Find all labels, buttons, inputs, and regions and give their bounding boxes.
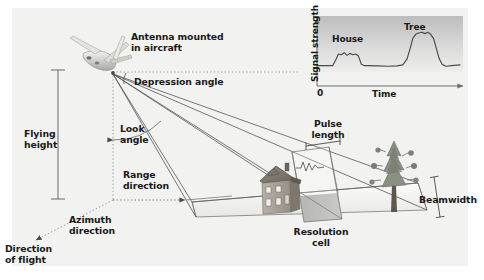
pulse-length-label-line2: length — [311, 129, 344, 140]
resolution-cell-label-line1: Resolution — [294, 226, 349, 237]
chart-xlabel: Time — [372, 89, 396, 100]
antenna-label-line2: in aircraft — [131, 42, 182, 53]
depression-angle-label: Depression angle — [134, 76, 224, 87]
antenna-label: Antenna mounted in aircraft — [131, 31, 227, 54]
range-direction-label: Range direction — [123, 169, 183, 192]
direction-of-flight-label: Direction of flight — [5, 243, 75, 266]
antenna-label-line1: Antenna mounted — [131, 31, 224, 42]
chart-annotation-house: House — [332, 34, 363, 45]
resolution-cell-label-line2: cell — [312, 237, 330, 248]
beamwidth-label: Beamwidth — [419, 194, 477, 205]
look-angle-label-line2: angle — [120, 134, 149, 145]
look-angle-label-line1: Look — [120, 123, 144, 134]
signal-strength-chart — [0, 0, 484, 280]
flying-height-label: Flying height — [24, 128, 72, 151]
chart-ylabel: Signal strength — [310, 5, 321, 82]
direction-of-flight-label-line2: of flight — [5, 254, 46, 265]
chart-x-origin-label: 0 — [317, 88, 323, 99]
flying-height-label-line2: height — [24, 139, 57, 150]
resolution-cell-label: Resolution cell — [285, 226, 357, 249]
range-direction-label-line2: direction — [123, 180, 169, 191]
direction-of-flight-label-line1: Direction — [5, 243, 52, 254]
pulse-length-label-line1: Pulse — [314, 118, 342, 129]
pulse-length-label: Pulse length — [305, 118, 351, 141]
azimuth-direction-label: Azimuth direction — [69, 214, 131, 237]
azimuth-direction-label-line2: direction — [69, 225, 115, 236]
chart-annotation-tree: Tree — [404, 22, 425, 33]
figure-root: Antenna mounted in aircraft Depression a… — [0, 0, 484, 280]
azimuth-direction-label-line1: Azimuth — [69, 214, 111, 225]
flying-height-label-line1: Flying — [24, 128, 55, 139]
look-angle-label: Look angle — [120, 123, 162, 146]
range-direction-label-line1: Range — [123, 169, 156, 180]
